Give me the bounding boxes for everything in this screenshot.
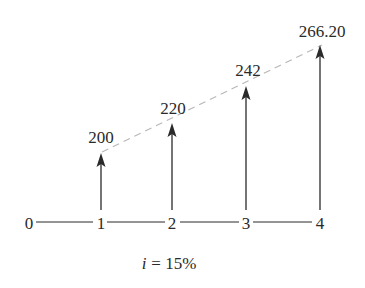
trend-line [102, 45, 322, 152]
cash-flow-arrow-2 [168, 123, 177, 210]
interest-rate-value: = 15% [151, 254, 196, 273]
period-label-2: 2 [168, 214, 177, 233]
period-label-3: 3 [242, 214, 251, 233]
period-label-4: 4 [316, 214, 325, 233]
cash-flow-diagram: 0 1 2 3 4 200 220 242 266.20 i= 15% [0, 0, 365, 288]
interest-rate-label: i= 15% [142, 254, 197, 273]
cash-flow-arrow-3 [242, 86, 251, 210]
cash-flow-amount-4: 266.20 [299, 22, 346, 41]
cash-flow-arrow-1 [97, 153, 106, 210]
interest-rate-variable: i [142, 254, 147, 273]
period-label-1: 1 [97, 214, 106, 233]
cash-flow-arrow-4 [316, 45, 325, 210]
cash-flow-amount-3: 242 [235, 61, 261, 80]
cash-flow-amount-2: 220 [160, 99, 186, 118]
period-label-0: 0 [25, 214, 34, 233]
cash-flow-amount-1: 200 [88, 128, 114, 147]
